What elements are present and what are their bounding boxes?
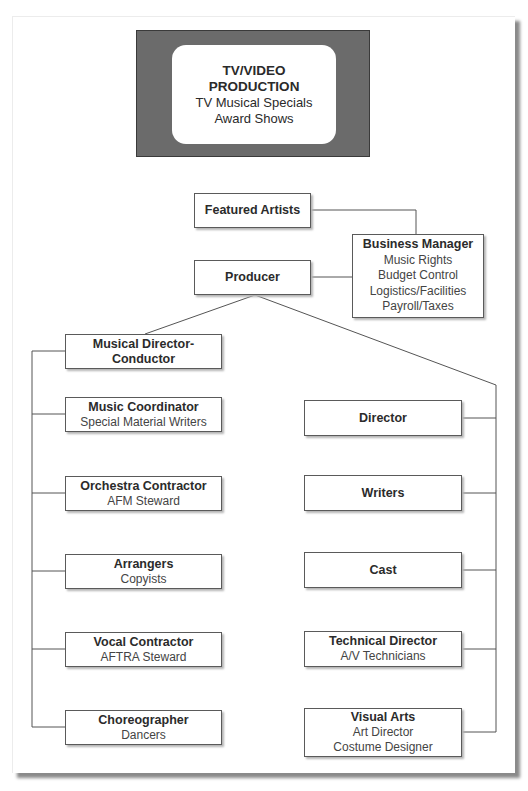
node-title: Music Coordinator (88, 400, 198, 415)
banner-subtitle-line2: Award Shows (214, 111, 293, 127)
node-subitem: Budget Control (378, 268, 458, 284)
node-choreographer: Choreographer Dancers (65, 710, 222, 745)
node-title: Featured Artists (205, 203, 300, 218)
banner-title-line2: PRODUCTION (209, 79, 300, 95)
node-vocal-contractor: Vocal Contractor AFTRA Steward (65, 632, 222, 667)
node-business-manager: Business Manager Music Rights Budget Con… (352, 234, 484, 318)
node-subitem: AFTRA Steward (100, 650, 186, 665)
node-subitem: AFM Steward (107, 494, 180, 509)
production-banner-label: TV/VIDEO PRODUCTION TV Musical Specials … (172, 45, 336, 144)
node-title: Cast (369, 563, 396, 578)
node-title: Visual Arts (351, 710, 416, 725)
banner-title-line1: TV/VIDEO (222, 63, 285, 79)
node-visual-arts: Visual Arts Art Director Costume Designe… (304, 708, 462, 757)
banner-subtitle-line1: TV Musical Specials (195, 95, 312, 111)
node-title: Musical Director- (93, 337, 194, 352)
node-subitem: Copyists (120, 572, 166, 587)
node-title: Choreographer (98, 713, 188, 728)
node-director: Director (304, 400, 462, 436)
node-subitem: Payroll/Taxes (382, 299, 453, 315)
node-title-line2: Conductor (112, 352, 175, 367)
node-subitem: A/V Technicians (340, 649, 425, 664)
node-orchestra-contractor: Orchestra Contractor AFM Steward (65, 476, 222, 511)
node-music-coordinator: Music Coordinator Special Material Write… (65, 397, 222, 432)
node-subitem: Logistics/Facilities (370, 284, 467, 300)
node-cast: Cast (304, 552, 462, 588)
node-title: Producer (225, 270, 280, 285)
node-producer: Producer (194, 260, 311, 295)
node-subitem: Music Rights (384, 253, 453, 269)
node-subitem: Dancers (121, 728, 166, 743)
production-banner: TV/VIDEO PRODUCTION TV Musical Specials … (136, 30, 370, 157)
node-technical-director: Technical Director A/V Technicians (304, 631, 462, 667)
node-subitem: Costume Designer (333, 740, 432, 755)
node-title: Technical Director (329, 634, 437, 649)
node-title: Vocal Contractor (94, 635, 194, 650)
node-musical-director-conductor: Musical Director- Conductor (65, 334, 222, 369)
node-title: Arrangers (114, 557, 174, 572)
node-subitem: Special Material Writers (80, 415, 206, 430)
node-title: Writers (362, 486, 405, 501)
node-subitem: Art Director (353, 725, 414, 740)
node-writers: Writers (304, 475, 462, 511)
node-title: Director (359, 411, 407, 426)
node-title: Orchestra Contractor (80, 479, 206, 494)
node-arrangers: Arrangers Copyists (65, 554, 222, 589)
node-featured-artists: Featured Artists (194, 193, 311, 228)
node-title: Business Manager (363, 237, 473, 253)
